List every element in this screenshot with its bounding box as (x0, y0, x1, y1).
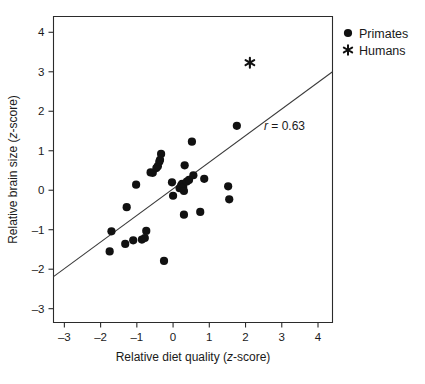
data-point-primate (121, 240, 129, 248)
x-tick-label: –3 (58, 331, 71, 343)
y-tick-label: –2 (32, 263, 45, 275)
data-point-primate (160, 257, 168, 265)
x-tick-label: 1 (206, 331, 212, 343)
y-tick-label: 0 (38, 184, 44, 196)
data-point-primate (129, 236, 137, 244)
data-point-primate (180, 211, 188, 219)
legend-label-humans: Humans (359, 44, 406, 58)
correlation-annotation: r = 0.63 (264, 119, 305, 133)
data-point-primate (200, 175, 208, 183)
data-point-primate (123, 203, 131, 211)
x-tick-label: 2 (242, 331, 248, 343)
x-tick-label: 4 (315, 331, 322, 343)
data-point-primate (225, 195, 233, 203)
y-tick-label: 2 (38, 105, 44, 117)
legend-marker-circle (344, 29, 352, 37)
data-point-primate (169, 192, 177, 200)
data-point-primate (189, 171, 197, 179)
legend-marker-asterisk-core (346, 48, 350, 52)
data-point-primate (196, 208, 204, 216)
y-tick-label: –1 (32, 224, 45, 236)
chart-canvas: –3–2–101234 Relative diet quality (z-sco… (0, 0, 425, 384)
y-tick-label: 1 (38, 145, 44, 157)
x-tick-label: –1 (130, 331, 143, 343)
data-point-primate (157, 150, 165, 158)
data-point-primate (141, 234, 149, 242)
data-point-primate (188, 138, 196, 146)
data-point-primate (107, 227, 115, 235)
data-point-primate (106, 247, 114, 255)
data-point-primate (233, 122, 241, 130)
x-tick-label: –2 (94, 331, 107, 343)
y-tick-label: 4 (38, 26, 45, 38)
y-tick-label: 3 (38, 66, 44, 78)
x-tick-label: 3 (279, 331, 285, 343)
x-axis-title: Relative diet quality (z-score) (116, 350, 271, 364)
y-tick-label: –3 (32, 303, 45, 315)
data-point-primate (168, 178, 176, 186)
data-point-primate (180, 187, 188, 195)
correlation-label: r = 0.63 (264, 119, 305, 133)
y-axis-title: Relative brain size (z-score) (6, 95, 20, 244)
data-point-primate (181, 161, 189, 169)
legend-label-primates: Primates (359, 27, 408, 41)
scatter-plot-figure: –3–2–101234 Relative diet quality (z-sco… (0, 0, 425, 384)
data-point-primate (224, 182, 232, 190)
data-point-human-core (248, 61, 252, 65)
data-point-primate (142, 227, 150, 235)
data-point-primate (132, 181, 140, 189)
x-tick-label: 0 (170, 331, 176, 343)
figure-background (0, 0, 425, 384)
